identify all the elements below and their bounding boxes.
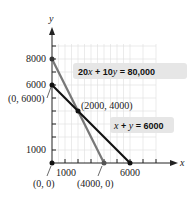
point-4000-0 [102, 161, 107, 166]
axes [52, 32, 172, 163]
y-tick-8000: 8000 [26, 53, 46, 64]
y-axis-label: y [48, 13, 54, 24]
x-tick-6000: 6000 [120, 167, 140, 178]
point-0-8000 [50, 57, 55, 62]
label-0-0: (0, 0) [33, 178, 55, 190]
graph: y x 8000 6000 1000 1000 6000 (0, 6000) (… [0, 0, 195, 198]
point-6000-0 [128, 161, 133, 166]
y-tick-1000: 1000 [26, 144, 46, 155]
equation-1: 20x + 10y = 80,000 [78, 66, 155, 77]
y-axis-arrow-icon [49, 27, 55, 35]
point-0-0 [50, 161, 55, 166]
label-0-6000: (0, 6000) [8, 93, 45, 105]
y-tick-6000: 6000 [26, 79, 46, 90]
x-axis-label: x [179, 157, 185, 168]
label-4000-0: (4000, 0) [77, 178, 114, 190]
label-2000-4000: (2000, 4000) [81, 100, 133, 112]
point-2000-4000 [76, 109, 81, 114]
x-axis-arrow-icon [170, 160, 178, 166]
x-tick-1000: 1000 [56, 167, 76, 178]
point-0-6000 [50, 83, 55, 88]
equation-2: x + y = 6000 [113, 120, 163, 131]
